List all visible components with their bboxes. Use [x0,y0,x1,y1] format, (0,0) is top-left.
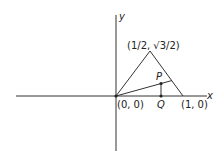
y-axis-label: y [118,11,126,22]
equilateral-triangle [116,51,183,96]
diagram-canvas: y x (1/2, √3/2) (0, 0) (1, 0) P Q [0,0,222,156]
point-p [159,82,162,85]
point-q [159,94,162,97]
unit-point-label: (1, 0) [181,99,208,110]
apex-label: (1/2, √3/2) [127,40,180,51]
origin-label: (0, 0) [117,99,144,110]
q-label: Q [157,99,165,110]
origin-point [114,94,117,97]
segment-origin-to-side [116,81,172,97]
p-label: P [156,71,163,82]
